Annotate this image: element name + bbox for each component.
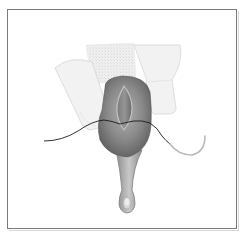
medical-illustration <box>0 0 242 235</box>
stalk-tip-highlight <box>125 199 129 206</box>
curved-needle <box>170 136 205 155</box>
figure-caption <box>120 230 230 235</box>
